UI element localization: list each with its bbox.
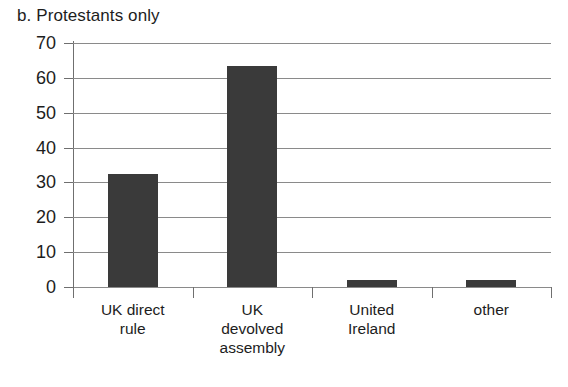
x-tick-label: UK directrule bbox=[73, 300, 193, 338]
y-tick bbox=[64, 148, 73, 149]
y-tick bbox=[64, 113, 73, 114]
y-tick bbox=[64, 43, 73, 44]
x-tick-label: UnitedIreland bbox=[312, 300, 432, 338]
y-tick bbox=[64, 252, 73, 253]
x-tick bbox=[73, 287, 74, 298]
y-tick-label: 20 bbox=[10, 208, 56, 226]
bar bbox=[227, 66, 277, 287]
y-tick-label: 30 bbox=[10, 173, 56, 191]
x-tick-label-line: United bbox=[312, 300, 432, 319]
y-tick-label: 60 bbox=[10, 69, 56, 87]
y-tick-label: 70 bbox=[10, 34, 56, 52]
y-tick bbox=[64, 287, 73, 288]
x-tick bbox=[432, 287, 433, 298]
x-tick-label-line: devolved bbox=[193, 319, 313, 338]
y-tick bbox=[64, 78, 73, 79]
y-tick-label: 0 bbox=[10, 278, 56, 296]
y-tick bbox=[64, 182, 73, 183]
x-tick-label: other bbox=[432, 300, 552, 319]
x-tick bbox=[551, 287, 552, 298]
x-tick-label-line: UK bbox=[193, 300, 313, 319]
x-tick-label-line: assembly bbox=[193, 338, 313, 357]
y-tick-label: 50 bbox=[10, 104, 56, 122]
plot-area bbox=[73, 43, 551, 287]
x-tick bbox=[312, 287, 313, 298]
x-tick bbox=[193, 287, 194, 298]
bar bbox=[347, 280, 397, 287]
bar bbox=[466, 280, 516, 287]
x-tick-label-line: Ireland bbox=[312, 319, 432, 338]
y-tick bbox=[64, 217, 73, 218]
chart-title: b. Protestants only bbox=[17, 6, 160, 26]
x-tick-label: UKdevolvedassembly bbox=[193, 300, 313, 357]
x-tick-label-line: UK direct bbox=[73, 300, 193, 319]
x-tick-label-line: rule bbox=[73, 319, 193, 338]
y-tick-label: 10 bbox=[10, 243, 56, 261]
bar bbox=[108, 174, 158, 287]
bar-chart: b. Protestants only 010203040506070 UK d… bbox=[0, 0, 568, 387]
x-tick-label-line: other bbox=[432, 300, 552, 319]
y-tick-label: 40 bbox=[10, 139, 56, 157]
